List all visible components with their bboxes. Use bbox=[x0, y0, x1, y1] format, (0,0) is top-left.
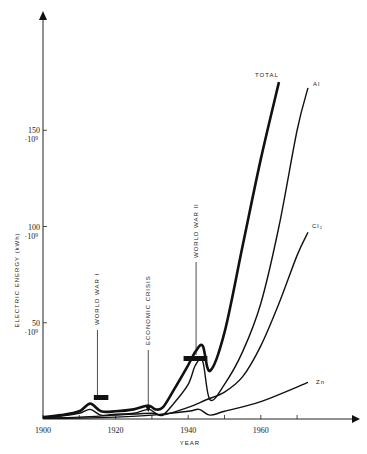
x-axis-arrow bbox=[352, 415, 360, 423]
x-tick-label: 1900 bbox=[35, 426, 51, 435]
annotation-span-bar bbox=[184, 356, 208, 361]
series-label-total: TOTAL bbox=[255, 72, 279, 78]
y-axis-label: ELECTRIC ENERGY (kWh) bbox=[14, 232, 20, 327]
series-line-total bbox=[43, 82, 279, 417]
annotation-label: ECONOMIC CRISIS bbox=[145, 275, 151, 345]
x-tick-label: 1960 bbox=[253, 426, 269, 435]
annotation-span-bar bbox=[94, 395, 109, 400]
series-label-al: Al bbox=[313, 81, 320, 87]
annotation-label: WORLD WAR I bbox=[94, 273, 100, 325]
series-line-cl2 bbox=[43, 232, 308, 418]
y-tick-label: 150 bbox=[28, 126, 40, 135]
y-tick-exponent: ·10⁹ bbox=[25, 328, 39, 337]
x-tick-label: 1920 bbox=[108, 426, 124, 435]
series-line-al bbox=[43, 88, 308, 418]
y-tick-exponent: ·10⁹ bbox=[25, 135, 39, 144]
y-tick-exponent: ·10⁹ bbox=[25, 232, 39, 241]
y-axis-arrow bbox=[39, 11, 47, 20]
annotation-label: WORLD WAR II bbox=[193, 203, 199, 258]
series-label-cl2: Cl₂ bbox=[312, 223, 323, 229]
series-label-zn: Zn bbox=[316, 379, 325, 385]
y-tick-label: 50 bbox=[32, 319, 40, 328]
series-group: TOTALAlCl₂Zn bbox=[43, 72, 325, 418]
x-tick-label: 1940 bbox=[180, 426, 196, 435]
x-axis-label: YEAR bbox=[180, 440, 200, 446]
chart: 190019201940196050·10⁹100·10⁹150·10⁹ TOT… bbox=[0, 0, 367, 454]
y-tick-label: 100 bbox=[28, 223, 40, 232]
